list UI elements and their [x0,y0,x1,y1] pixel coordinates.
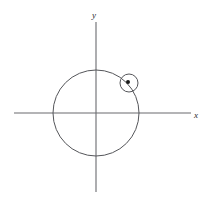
x-axis-label: x [194,111,198,120]
geometry-figure: y x [0,0,211,203]
figure-canvas [0,0,211,203]
y-axis-label: y [92,11,96,20]
center-point-marker [126,80,130,84]
